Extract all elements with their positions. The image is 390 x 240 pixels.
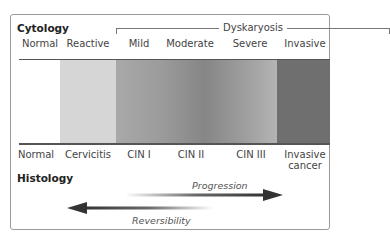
cyto-label: Normal — [22, 38, 58, 49]
reversibility-label: Reversibility — [132, 215, 191, 226]
progression-arrow-icon — [125, 188, 285, 202]
cytology-heading: Cytology — [17, 22, 69, 34]
histo-label: Invasivecancer — [284, 149, 325, 171]
cyto-label: Severe — [233, 38, 268, 49]
dyskaryosis-bracket: Dyskaryosis — [116, 28, 390, 34]
label-text: Cervicitis — [65, 149, 111, 160]
band-segment-dyskaryosis — [116, 60, 277, 144]
dyskaryosis-label: Dyskaryosis — [219, 22, 287, 33]
label-text: Invasive — [284, 38, 325, 49]
histo-label: CIN III — [236, 149, 265, 160]
label-text: Moderate — [166, 38, 214, 49]
label-text: CIN I — [127, 149, 151, 160]
progression-band — [19, 60, 330, 144]
band-segment-invasive — [277, 60, 330, 144]
histo-label: Normal — [18, 149, 54, 160]
cyto-label: Mild — [129, 38, 150, 49]
label-text: Severe — [233, 38, 268, 49]
cyto-label: Reactive — [66, 38, 109, 49]
label-text: Mild — [129, 38, 150, 49]
label-text: Reactive — [66, 38, 109, 49]
histo-label: CIN II — [178, 149, 205, 160]
cyto-label: Invasive — [284, 38, 325, 49]
histo-label: Cervicitis — [65, 149, 111, 160]
label-text-line2: cancer — [284, 160, 325, 171]
label-text: Normal — [18, 149, 54, 160]
histo-label: CIN I — [127, 149, 151, 160]
histology-heading: Histology — [17, 172, 73, 184]
band-segment-reactive — [60, 60, 116, 144]
reversibility-arrow-icon — [65, 201, 215, 215]
band-bottom-line — [19, 143, 330, 145]
cyto-label: Moderate — [166, 38, 214, 49]
label-text: Normal — [22, 38, 58, 49]
label-text: CIN II — [178, 149, 205, 160]
label-text: CIN III — [236, 149, 265, 160]
band-segment-normal — [19, 60, 60, 144]
label-text: Invasive — [284, 149, 325, 160]
